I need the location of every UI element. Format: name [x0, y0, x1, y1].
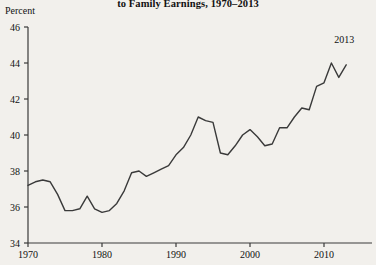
- y-axis-tick-label: 46: [10, 22, 20, 33]
- annotation-group: 2013: [334, 34, 354, 45]
- y-axis-tick-label: 42: [10, 94, 20, 105]
- x-axis-tick-label: 2000: [240, 249, 260, 260]
- x-axis-tick-label: 1970: [18, 249, 38, 260]
- x-axis-tick-group: 19701980199020002010: [18, 243, 334, 260]
- x-axis-tick-label: 1980: [92, 249, 112, 260]
- x-axis-tick-label: 1990: [166, 249, 186, 260]
- data-point-annotation: 2013: [334, 34, 354, 45]
- data-series-line: [28, 63, 346, 212]
- line-chart-plot: 34363840424446 19701980199020002010 2013: [0, 0, 376, 265]
- y-axis-tick-group: 34363840424446: [10, 22, 28, 249]
- y-axis-tick-label: 40: [10, 130, 20, 141]
- chart-container: to Family Earnings, 1970–2013 Percent 34…: [0, 0, 376, 265]
- x-axis-tick-label: 2010: [314, 249, 334, 260]
- y-axis-tick-label: 38: [10, 166, 20, 177]
- y-axis-tick-label: 34: [10, 238, 20, 249]
- y-axis-tick-label: 44: [10, 58, 20, 69]
- y-axis-tick-label: 36: [10, 202, 20, 213]
